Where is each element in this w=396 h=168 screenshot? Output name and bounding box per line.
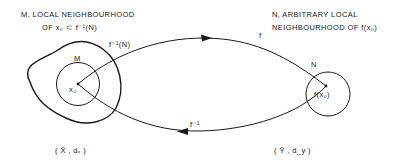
space-y-label: ( Ȳ , d_y ) xyxy=(274,147,311,155)
n-title-line1: N, ARBITRARY LOCAL xyxy=(272,11,358,19)
label-finv: f⁻¹ xyxy=(190,121,200,129)
label-x0: x₀ xyxy=(69,86,77,94)
label-f: f xyxy=(259,32,261,40)
label-m: M xyxy=(74,55,81,63)
n-title-line2: NEIGHBOURHOOD OF f(x₀) xyxy=(272,24,377,32)
space-x-label: ( X̄ , dₓ ) xyxy=(55,147,86,155)
m-title-line1: M, LOCAL NEIGHBOURHOOD xyxy=(21,11,135,19)
m-title-line2: OF x₀ ⊂ f⁻¹(N) xyxy=(42,24,97,32)
label-fx0: f(x₀) xyxy=(314,91,330,99)
mapping-finv-curve xyxy=(78,84,326,131)
arrow-f-icon xyxy=(201,35,212,42)
arrow-finv-icon xyxy=(177,128,188,135)
label-finv-n: f⁻¹(N) xyxy=(109,41,130,49)
label-n: N xyxy=(311,61,317,69)
